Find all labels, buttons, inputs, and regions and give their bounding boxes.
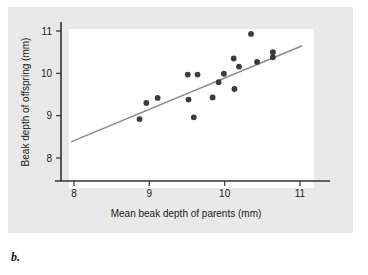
trendline <box>71 46 302 142</box>
y-tick-label: 8 <box>46 153 52 164</box>
data-point <box>185 72 191 78</box>
y-tick-label: 11 <box>42 26 53 37</box>
x-tick-label: 11 <box>295 188 306 199</box>
data-point <box>221 71 227 77</box>
data-point <box>137 116 143 122</box>
data-point <box>248 31 254 37</box>
data-point <box>231 56 237 62</box>
data-point <box>216 79 222 85</box>
x-axis-tick-labels: 891011 <box>71 188 305 199</box>
data-point <box>232 86 238 92</box>
y-axis-tick-labels: 891011 <box>41 26 53 164</box>
figure-caption-label: b. <box>11 250 20 265</box>
axis-ticks <box>56 31 300 186</box>
data-point <box>270 49 276 55</box>
y-axis-title: Beak depth of offspring (mm) <box>20 38 31 167</box>
data-point <box>270 54 276 60</box>
y-tick-label: 9 <box>46 110 52 121</box>
x-axis-title: Mean beak depth of parents (mm) <box>111 208 262 219</box>
x-tick-label: 10 <box>219 188 231 199</box>
figure-root: 891011 891011 Mean beak depth of parents… <box>0 0 368 275</box>
regression-line <box>71 46 302 142</box>
data-point <box>210 95 216 101</box>
data-point <box>143 100 149 106</box>
scatter-plot: 891011 891011 Mean beak depth of parents… <box>0 0 368 245</box>
data-point <box>191 114 197 120</box>
data-point <box>236 64 242 70</box>
x-tick-label: 8 <box>71 188 77 199</box>
y-tick-label: 10 <box>41 68 53 79</box>
data-point <box>186 97 192 103</box>
data-point <box>155 95 161 101</box>
data-point <box>195 72 201 78</box>
data-points <box>137 31 276 122</box>
x-tick-label: 9 <box>147 188 153 199</box>
axes <box>55 22 330 181</box>
data-point <box>254 59 260 65</box>
